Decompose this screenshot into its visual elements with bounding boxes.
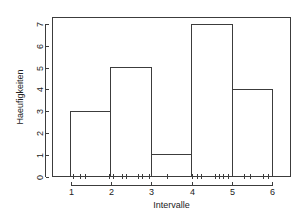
histogram-bar — [111, 68, 151, 177]
y-axis-tick-label: 4 — [35, 87, 45, 92]
x-axis-tick-label: 4 — [190, 187, 195, 197]
histogram-bar — [71, 111, 111, 176]
plot-frame — [53, 18, 291, 177]
y-axis-tick-label: 5 — [35, 66, 45, 71]
histogram-plot: 12345601234567IntervalleHaeufigkeiten — [0, 0, 307, 220]
x-axis: 123456 — [69, 182, 275, 197]
y-axis-title: Haeufigkeiten — [15, 69, 25, 124]
histogram-figure: 12345601234567IntervalleHaeufigkeiten — [0, 0, 307, 220]
y-axis-tick-label: 6 — [35, 44, 45, 49]
y-axis-tick-label: 3 — [35, 109, 45, 114]
x-axis-title: Intervalle — [153, 200, 190, 210]
bars-group — [71, 24, 273, 176]
y-axis-tick-label: 2 — [35, 131, 45, 136]
x-axis-tick-label: 5 — [230, 187, 235, 197]
y-axis-tick-label: 7 — [35, 22, 45, 27]
histogram-bar — [232, 89, 272, 176]
y-axis-tick-label: 0 — [35, 175, 45, 180]
y-axis-tick-label: 1 — [35, 153, 45, 158]
x-axis-tick-label: 2 — [109, 187, 114, 197]
x-axis-tick-label: 1 — [69, 187, 74, 197]
x-axis-tick-label: 3 — [149, 187, 154, 197]
histogram-bar — [151, 155, 191, 177]
x-axis-tick-label: 6 — [270, 187, 275, 197]
y-axis: 01234567 — [35, 22, 50, 180]
histogram-bar — [192, 24, 232, 176]
